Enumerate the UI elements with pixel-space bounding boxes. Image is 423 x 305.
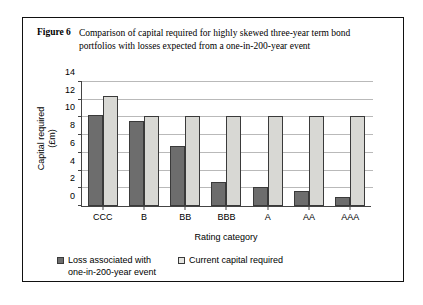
bar-group: B xyxy=(123,82,164,206)
bar-group: BB xyxy=(165,82,206,206)
bar-bbb-series1 xyxy=(211,182,226,206)
x-axis-tick-label: CCC xyxy=(82,212,123,222)
x-axis-tick xyxy=(226,206,227,210)
bar-group: A xyxy=(247,82,288,206)
x-axis-tick xyxy=(102,206,103,210)
y-axis-tick-label: 4 xyxy=(70,156,75,166)
x-axis-tick xyxy=(143,206,144,210)
bar-a-series2 xyxy=(268,116,283,206)
legend-label-line1: Loss associated with xyxy=(68,255,151,265)
bar-aa-series1 xyxy=(294,191,309,206)
legend-item-2[interactable]: Current capital required xyxy=(178,255,283,267)
y-axis-tick-label: 12 xyxy=(65,85,75,95)
bar-group: AAA xyxy=(330,82,371,206)
x-axis-tick-label: BBB xyxy=(206,212,247,222)
y-axis-tick-label: 2 xyxy=(70,173,75,183)
chart-legend: Loss associated withone-in-200-year even… xyxy=(57,255,387,278)
y-axis-tick-label: 8 xyxy=(70,120,75,130)
y-axis-title-line2: (£m) xyxy=(46,79,57,199)
y-axis-tick-label: 6 xyxy=(70,138,75,148)
bar-bb-series2 xyxy=(185,116,200,206)
y-axis-title-line1: Capital required xyxy=(36,107,46,171)
x-axis-title: Rating category xyxy=(81,232,371,242)
figure-frame: Figure 6 Comparison of capital required … xyxy=(22,17,404,282)
bar-ccc-series2 xyxy=(103,96,118,206)
bar-a-series1 xyxy=(253,187,268,206)
x-axis-tick xyxy=(185,206,186,210)
plot-area: 02468101214 CCCBBBBBBAAAAAA xyxy=(81,82,371,207)
figure-number: Figure 6 xyxy=(37,27,71,37)
figure-caption-text: Comparison of capital required for highl… xyxy=(79,27,389,52)
x-axis-tick xyxy=(350,206,351,210)
y-axis-tick-label: 0 xyxy=(70,191,75,201)
bar-group: BBB xyxy=(206,82,247,206)
bar-bb-series1 xyxy=(170,146,185,206)
legend-item-1[interactable]: Loss associated withone-in-200-year even… xyxy=(57,255,156,278)
x-axis-tick xyxy=(309,206,310,210)
plot-area-wrapper: 02468101214 CCCBBBBBBAAAAAA xyxy=(81,82,371,207)
bar-aaa-series1 xyxy=(335,197,350,206)
bar-chart: Capital required (£m) 02468101214 CCCBBB… xyxy=(23,70,405,283)
y-axis-title: Capital required (£m) xyxy=(36,79,57,199)
x-axis-tick-label: B xyxy=(123,212,164,222)
bar-b-series1 xyxy=(129,121,144,206)
x-axis-tick-label: AA xyxy=(288,212,329,222)
legend-label: Current capital required xyxy=(189,255,283,267)
bar-aa-series2 xyxy=(309,116,324,206)
bar-groups: CCCBBBBBBAAAAAA xyxy=(82,82,371,206)
bar-ccc-series1 xyxy=(88,115,103,206)
y-axis-tick-label: 10 xyxy=(65,102,75,112)
bar-group: CCC xyxy=(82,82,123,206)
x-axis-tick-label: A xyxy=(247,212,288,222)
legend-label: Loss associated withone-in-200-year even… xyxy=(68,255,156,278)
x-axis-tick-label: AAA xyxy=(330,212,371,222)
x-axis-tick-label: BB xyxy=(165,212,206,222)
bar-aaa-series2 xyxy=(350,116,365,206)
bar-b-series2 xyxy=(144,116,159,206)
x-axis-tick xyxy=(267,206,268,210)
figure-caption: Figure 6 Comparison of capital required … xyxy=(37,27,389,52)
bar-group: AA xyxy=(288,82,329,206)
legend-label-line2: one-in-200-year event xyxy=(68,267,156,277)
bar-bbb-series2 xyxy=(226,116,241,206)
legend-swatch-icon xyxy=(178,257,185,264)
legend-swatch-icon xyxy=(57,257,64,264)
y-axis-tick-label: 14 xyxy=(65,67,75,77)
